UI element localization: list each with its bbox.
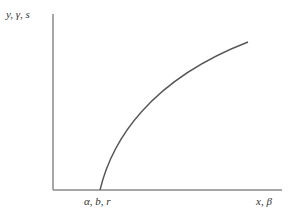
x-axis-label: x, β xyxy=(256,195,272,207)
x-intercept-label: α, b, r xyxy=(84,195,111,207)
diagram-canvas xyxy=(0,0,294,223)
concave-curve xyxy=(100,42,248,190)
y-axis-label: y, γ, s xyxy=(6,8,30,20)
concave-curve-diagram: y, γ, s α, b, r x, β xyxy=(0,0,294,223)
